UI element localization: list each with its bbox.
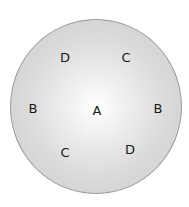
label-bottom-left: C <box>60 146 69 159</box>
label-bottom-right: D <box>125 143 135 156</box>
label-left: B <box>29 102 38 115</box>
label-top-left: D <box>60 51 70 64</box>
label-center: A <box>93 104 102 117</box>
label-right: B <box>154 102 163 115</box>
label-top-right: C <box>121 51 130 64</box>
